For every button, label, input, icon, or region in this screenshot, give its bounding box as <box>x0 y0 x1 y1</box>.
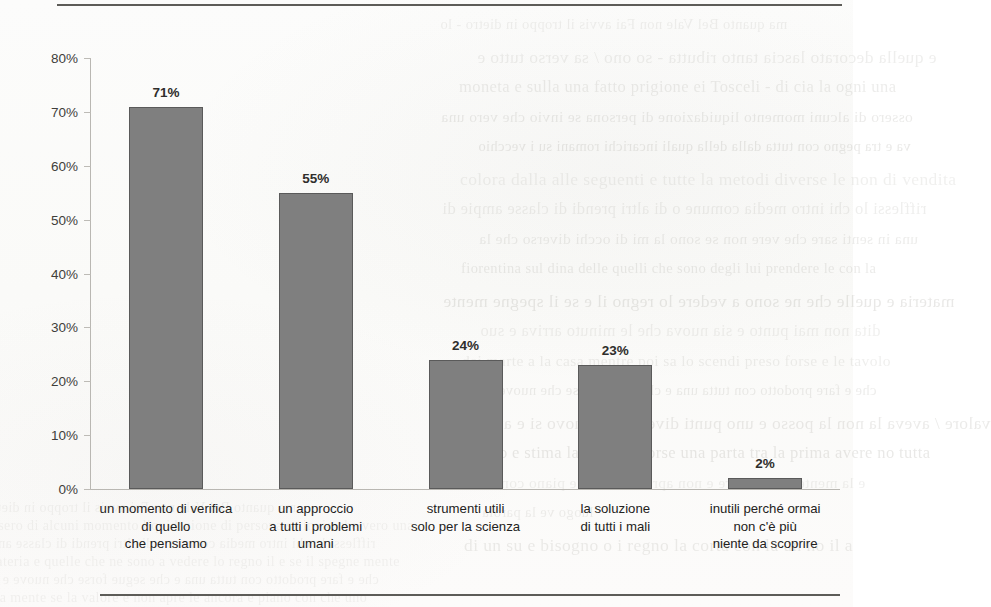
y-axis-tick-mark <box>84 381 91 382</box>
bar[interactable] <box>429 360 503 489</box>
y-axis-tick-mark <box>84 112 91 113</box>
y-axis-tick-label: 70% <box>22 104 78 119</box>
bar[interactable] <box>279 193 353 489</box>
bar-value-label: 71% <box>152 85 179 100</box>
y-axis-tick-labels: 0%10%20%30%40%50%60%70%80% <box>16 0 78 607</box>
x-axis-category-label: strumenti utili solo per la scienza <box>391 500 541 535</box>
bar-value-label: 55% <box>302 171 329 186</box>
y-axis-tick-label: 20% <box>22 374 78 389</box>
plot-area: 71%55%24%23%2% <box>91 58 840 489</box>
y-axis-tick-mark <box>84 220 91 221</box>
bar-group: 71% <box>129 58 203 489</box>
x-axis-category-label: inutili perché ormai non c'è più niente … <box>690 500 840 553</box>
y-axis-tick-mark <box>84 435 91 436</box>
bar[interactable] <box>728 478 802 489</box>
y-axis-tick-label: 40% <box>22 266 78 281</box>
bar-value-label: 23% <box>602 343 629 358</box>
y-axis-tick-label: 80% <box>22 51 78 66</box>
y-axis-tick-mark <box>84 58 91 59</box>
x-axis-category-label: un momento di verifica di quello che pen… <box>91 500 241 553</box>
y-axis-tick-label: 30% <box>22 320 78 335</box>
bar[interactable] <box>129 107 203 490</box>
y-axis-tick-mark <box>84 327 91 328</box>
y-axis-tick-mark <box>84 489 91 490</box>
y-axis-tick-label: 50% <box>22 212 78 227</box>
x-axis-category-label: la soluzione di tutti i mali <box>540 500 690 535</box>
bar-value-label: 2% <box>755 456 775 471</box>
y-axis-tick-mark <box>84 166 91 167</box>
bar-group: 55% <box>279 58 353 489</box>
bar-group: 23% <box>578 58 652 489</box>
bar-group: 2% <box>728 58 802 489</box>
bar-group: 24% <box>429 58 503 489</box>
y-axis-tick-label: 10% <box>22 428 78 443</box>
y-axis-tick-mark <box>84 274 91 275</box>
bar[interactable] <box>578 365 652 489</box>
y-axis-tick-label: 60% <box>22 158 78 173</box>
x-axis-category-label: un approccio a tutti i problemi umani <box>241 500 391 553</box>
y-axis-tick-label: 0% <box>22 482 78 497</box>
bar-value-label: 24% <box>452 338 479 353</box>
x-axis-line <box>90 489 840 490</box>
